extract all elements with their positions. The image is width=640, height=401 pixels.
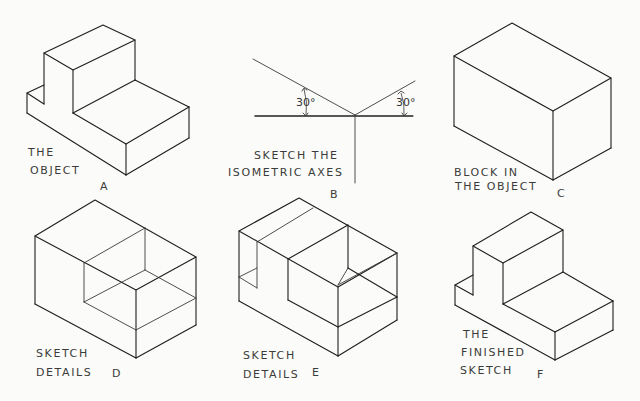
- figure-e-details-drawing: [239, 198, 397, 356]
- figure-c-caption-line1: BLOCK IN: [454, 166, 519, 179]
- figure-d-details-drawing: [35, 200, 196, 358]
- figure-a-caption-line1: THE: [28, 146, 55, 159]
- figure-f-caption-line2: FINISHED: [461, 346, 526, 359]
- figure-c-letter: C: [557, 187, 565, 200]
- angle-label-right: 30°: [396, 96, 416, 109]
- drawing-canvas: [0, 0, 640, 401]
- figure-e-caption-line1: SKETCH: [243, 349, 296, 362]
- figure-e-letter: E: [312, 366, 319, 379]
- figure-b-caption-line1: SKETCH THE: [254, 149, 339, 162]
- isometric-sketch-steps-figure: 30° 30° THE OBJECT A SKETCH THE ISOMETRI…: [0, 0, 640, 401]
- figure-e-caption-line2: DETAILS: [243, 368, 299, 381]
- figure-a-caption-line2: OBJECT: [30, 164, 80, 177]
- figure-b-caption-line2: ISOMETRIC AXES: [228, 166, 344, 179]
- figure-d-letter: D: [112, 367, 120, 380]
- figure-f-caption-line1: THE: [463, 328, 490, 341]
- angle-label-left: 30°: [296, 96, 316, 109]
- figure-f-caption-line3: SKETCH: [460, 364, 513, 377]
- figure-d-caption-line2: DETAILS: [36, 366, 92, 379]
- figure-c-block-drawing: [454, 23, 611, 180]
- figure-b-letter: B: [330, 188, 338, 201]
- figure-a-letter: A: [100, 180, 108, 193]
- figure-b-isometric-axes-drawing: [253, 59, 415, 183]
- figure-f-letter: F: [537, 368, 543, 381]
- figure-d-caption-line1: SKETCH: [36, 347, 89, 360]
- figure-c-caption-line2: THE OBJECT: [455, 180, 537, 193]
